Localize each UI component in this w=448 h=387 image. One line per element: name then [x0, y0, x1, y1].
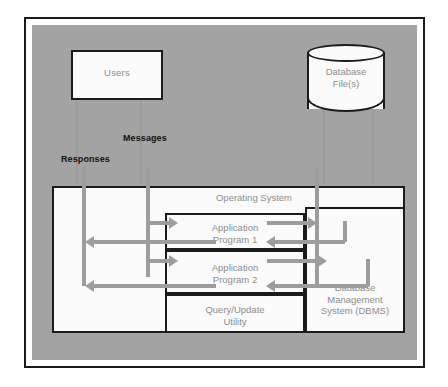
database-file-label: Database File(s)	[307, 66, 385, 89]
dbms-to-app2-line	[275, 284, 368, 288]
dbms-to-app2-arrowhead	[266, 280, 275, 292]
dbms-db-trunk-outer	[343, 221, 347, 242]
app2-label-line1: Application	[167, 262, 303, 274]
database-file-label-line1: Database	[307, 66, 385, 78]
application-program-1-box: Application Program 1	[165, 213, 305, 250]
dbms-label-line2: Management	[307, 294, 403, 306]
dbms-to-app1-arrowhead	[266, 236, 275, 248]
response-from-app2-line	[94, 284, 216, 288]
message-to-app1-arrowhead	[169, 217, 178, 229]
dbms-reply-riser	[366, 259, 370, 286]
response-from-app2-arrowhead	[85, 280, 94, 292]
query-update-label-line2: Utility	[167, 316, 303, 328]
messages-label: Messages	[123, 133, 167, 143]
response-from-app1-line	[94, 240, 216, 244]
database-file-cylinder: Database File(s)	[307, 44, 385, 117]
diagram-canvas: Users Database File(s) Messages Response…	[0, 0, 448, 387]
responses-label: Responses	[61, 154, 110, 164]
app2-to-dbms-arrowhead	[318, 255, 327, 267]
query-update-label: Query/Update Utility	[167, 304, 303, 327]
app1-to-dbms-line	[267, 221, 309, 225]
query-update-utility-box: Query/Update Utility	[165, 294, 305, 333]
users-box: Users	[71, 50, 163, 100]
database-file-label-line2: File(s)	[307, 78, 385, 90]
message-to-app2-arrowhead	[169, 255, 178, 267]
outer-frame: Users Database File(s) Messages Response…	[24, 17, 425, 368]
app2-label: Application Program 2	[167, 262, 303, 285]
app2-to-dbms-line	[267, 259, 319, 263]
response-from-app1-arrowhead	[85, 236, 94, 248]
query-update-label-line1: Query/Update	[167, 304, 303, 316]
users-response-trunk	[82, 167, 86, 286]
faint-connector-left	[76, 87, 78, 184]
dbms-to-app1-line	[275, 240, 345, 244]
cylinder-bottom-arc	[307, 92, 385, 112]
message-to-app1-line	[148, 221, 170, 225]
dbms-db-trunk-inner	[315, 167, 319, 286]
message-to-app2-line	[148, 259, 170, 263]
dbms-label-line3: System (DBMS)	[307, 305, 403, 317]
users-label: Users	[73, 67, 161, 78]
dbms-box: Database Management System (DBMS)	[305, 207, 405, 333]
cylinder-top-ellipse	[307, 44, 385, 62]
